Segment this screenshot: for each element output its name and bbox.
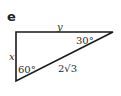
diagram-canvas: e y x 30° 60° 2√3 [0, 0, 121, 96]
angle-60-label: 60° [18, 65, 36, 75]
hypotenuse-label: 2√3 [58, 64, 77, 74]
angle-30-label: 30° [76, 36, 94, 46]
side-x-label: x [9, 52, 15, 62]
side-y-label: y [57, 22, 63, 32]
right-triangle [0, 0, 121, 96]
